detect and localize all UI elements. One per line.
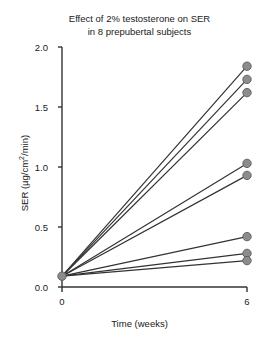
endpoint-marker-8 (243, 256, 251, 264)
endpoint-marker-1 (243, 62, 251, 70)
axes (58, 47, 247, 292)
baseline-marker (58, 272, 66, 280)
x-tick-label-6: 6 (235, 296, 259, 307)
series-line-4 (62, 163, 247, 276)
endpoint-marker-6 (243, 232, 251, 240)
x-axis-label: Time (weeks) (0, 318, 279, 329)
y-tick-label-4: 2.0 (14, 42, 48, 53)
y-axis-label: SER (µg/cm2/min) (18, 98, 30, 248)
endpoint-marker-2 (243, 75, 251, 83)
endpoint-marker-4 (243, 159, 251, 167)
x-tick-label-0: 0 (50, 296, 74, 307)
chart-figure: Effect of 2% testosterone on SER in 8 pr… (0, 0, 279, 344)
series-line-2 (62, 79, 247, 276)
endpoint-marker-3 (243, 88, 251, 96)
endpoint-marker-5 (243, 171, 251, 179)
y-tick-label-0: 0.0 (14, 282, 48, 293)
series-line-8 (62, 261, 247, 277)
y-axis-label-prefix: SER (µg/cm (19, 160, 30, 211)
y-axis-label-suffix: /min) (19, 135, 30, 156)
series-line-5 (62, 175, 247, 276)
series-lines (62, 66, 247, 276)
series-line-1 (62, 66, 247, 276)
y-axis-label-exponent: 2 (18, 156, 25, 160)
series-line-3 (62, 93, 247, 277)
